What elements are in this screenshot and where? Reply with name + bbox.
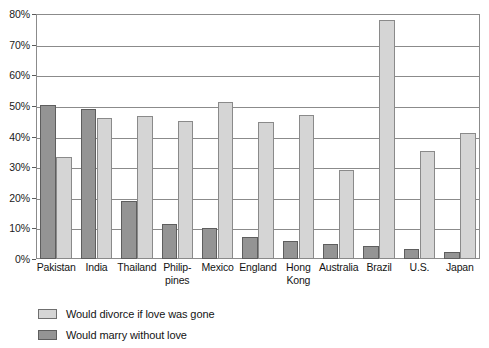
bar-group	[359, 14, 399, 259]
bar-divorce-if-love-gone	[379, 20, 395, 259]
bar-group	[278, 14, 318, 259]
y-axis: 0%10%20%30%40%50%60%70%80%	[0, 0, 36, 259]
bar-divorce-if-love-gone	[460, 133, 476, 259]
bar-chart: 0%10%20%30%40%50%60%70%80% PakistanIndia…	[0, 0, 489, 348]
bar-divorce-if-love-gone	[97, 118, 113, 259]
bar-group	[197, 14, 237, 259]
x-axis-label-line: Japan	[446, 261, 474, 273]
chart-legend: Would divorce if love was gone Would mar…	[38, 303, 458, 345]
y-axis-tick-label: 70%	[9, 39, 30, 51]
bar-divorce-if-love-gone	[258, 122, 274, 259]
legend-label-divorce: Would divorce if love was gone	[66, 308, 214, 320]
x-axis-label-line: pines	[148, 274, 206, 287]
y-axis-tick-label: 80%	[9, 8, 30, 20]
bar-divorce-if-love-gone	[299, 115, 315, 259]
bar-divorce-if-love-gone	[137, 116, 153, 259]
bar-marry-without-love	[242, 237, 258, 259]
y-axis-tick-label: 40%	[9, 131, 30, 143]
y-axis-tick-label: 10%	[9, 222, 30, 234]
y-axis-tick-label: 60%	[9, 69, 30, 81]
bar-marry-without-love	[121, 201, 137, 259]
y-axis-tick-mark	[32, 259, 36, 260]
bar-group	[36, 14, 76, 259]
bar-divorce-if-love-gone	[339, 170, 355, 259]
bars-layer	[36, 14, 480, 259]
bar-group	[319, 14, 359, 259]
x-axis-label: Japan	[431, 261, 489, 274]
bar-group	[440, 14, 480, 259]
bar-marry-without-love	[323, 244, 339, 259]
y-axis-tick-label: 20%	[9, 192, 30, 204]
bar-marry-without-love	[444, 252, 460, 259]
bar-divorce-if-love-gone	[178, 121, 194, 259]
bar-marry-without-love	[40, 105, 56, 259]
legend-item-divorce: Would divorce if love was gone	[38, 303, 458, 324]
bar-marry-without-love	[404, 249, 420, 259]
bar-marry-without-love	[162, 224, 178, 259]
x-axis-label-line: India	[86, 261, 108, 273]
y-axis-tick-label: 50%	[9, 100, 30, 112]
bar-divorce-if-love-gone	[218, 102, 234, 259]
bar-group	[117, 14, 157, 259]
x-axis-labels: PakistanIndiaThailandPhilip-pinesMexicoE…	[36, 261, 480, 295]
x-axis-label-line: Philip-	[163, 261, 191, 273]
legend-swatch-marry-icon	[38, 330, 57, 340]
legend-label-marry: Would marry without love	[66, 329, 187, 341]
bar-divorce-if-love-gone	[56, 157, 72, 259]
legend-swatch-divorce-icon	[38, 309, 57, 319]
x-axis-label-line: Brazil	[366, 261, 391, 273]
bar-group	[76, 14, 116, 259]
y-axis-tick-label: 30%	[9, 161, 30, 173]
bar-marry-without-love	[283, 241, 299, 259]
bar-divorce-if-love-gone	[420, 151, 436, 259]
bar-marry-without-love	[202, 228, 218, 259]
bar-marry-without-love	[81, 109, 97, 259]
x-axis-label-line: Kong	[269, 274, 327, 287]
x-axis-label-line: U.S.	[410, 261, 430, 273]
bar-marry-without-love	[363, 246, 379, 259]
x-axis-label-line: Hong	[286, 261, 311, 273]
bar-group	[157, 14, 197, 259]
legend-item-marry: Would marry without love	[38, 324, 458, 345]
bar-group	[399, 14, 439, 259]
bar-group	[238, 14, 278, 259]
